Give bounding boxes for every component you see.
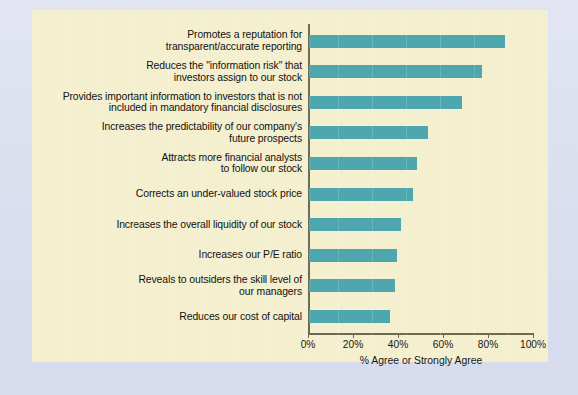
bar-category-label: Attracts more financial analyststo follo… <box>40 152 302 175</box>
x-axis-tick-label: 0% <box>301 339 316 350</box>
bar-category-label-line2: included in mandatory financial disclosu… <box>109 102 302 113</box>
x-axis-tick <box>398 333 399 338</box>
bar <box>309 218 401 231</box>
bar <box>309 35 505 48</box>
bar-row: Increases our P/E ratio <box>32 240 548 270</box>
bar-category-label-line2: our managers <box>239 286 302 297</box>
x-axis-tick <box>308 333 309 338</box>
bar <box>309 157 417 170</box>
bar-category-label-line2: transparent/accurate reporting <box>166 41 302 52</box>
bar-category-label-line2: investors assign to our stock <box>174 72 302 83</box>
bar <box>309 65 482 78</box>
bar <box>309 310 390 323</box>
bar-row: Reduces the "information risk" thatinves… <box>32 57 548 87</box>
bar-category-label: Increases the predictability of our comp… <box>40 121 302 144</box>
bar-category-label: Reveals to outsiders the skill level ofo… <box>40 274 302 297</box>
bar-chart-plot-area: Promotes a reputation fortransparent/acc… <box>32 10 548 362</box>
x-axis-tick-label: 80% <box>478 339 498 350</box>
bar-category-label-line2: to follow our stock <box>221 163 302 174</box>
x-axis-tick-label: 40% <box>388 339 408 350</box>
bar <box>309 279 395 292</box>
bar <box>309 96 462 109</box>
bar-row: Increases the predictability of our comp… <box>32 118 548 148</box>
x-axis-tick <box>443 333 444 338</box>
bar-category-label: Provides important information to invest… <box>40 91 302 114</box>
bar-category-label: Increases the overall liquidity of our s… <box>40 219 302 231</box>
x-axis-tick <box>353 333 354 338</box>
bar-category-label: Promotes a reputation fortransparent/acc… <box>40 29 302 52</box>
bar-category-label: Reduces our cost of capital <box>40 311 302 323</box>
bar-row: Provides important information to invest… <box>32 87 548 117</box>
x-axis-tick <box>533 333 534 338</box>
bar-category-label: Increases our P/E ratio <box>40 249 302 261</box>
bar <box>309 126 428 139</box>
chart-panel: Promotes a reputation fortransparent/acc… <box>32 10 548 362</box>
bar-category-label: Reduces the "information risk" thatinves… <box>40 60 302 83</box>
bar <box>309 188 413 201</box>
x-axis-tick-label: 100% <box>520 339 546 350</box>
bar-category-label-line2: future prospects <box>229 133 302 144</box>
page-background: Promotes a reputation fortransparent/acc… <box>0 0 578 395</box>
bar-row: Increases the overall liquidity of our s… <box>32 210 548 240</box>
bar-row: Corrects an under-valued stock price <box>32 179 548 209</box>
x-axis-line <box>308 333 534 335</box>
bar <box>309 249 397 262</box>
x-axis-title: % Agree or Strongly Agree <box>308 355 534 366</box>
x-axis-tick-label: 60% <box>433 339 453 350</box>
x-axis-tick-label: 20% <box>343 339 363 350</box>
bar-row: Promotes a reputation fortransparent/acc… <box>32 26 548 56</box>
bar-row: Reveals to outsiders the skill level ofo… <box>32 271 548 301</box>
x-axis-tick <box>488 333 489 338</box>
bar-category-label: Corrects an under-valued stock price <box>40 188 302 200</box>
bar-row: Attracts more financial analyststo follo… <box>32 148 548 178</box>
bar-row: Reduces our cost of capital <box>32 301 548 331</box>
